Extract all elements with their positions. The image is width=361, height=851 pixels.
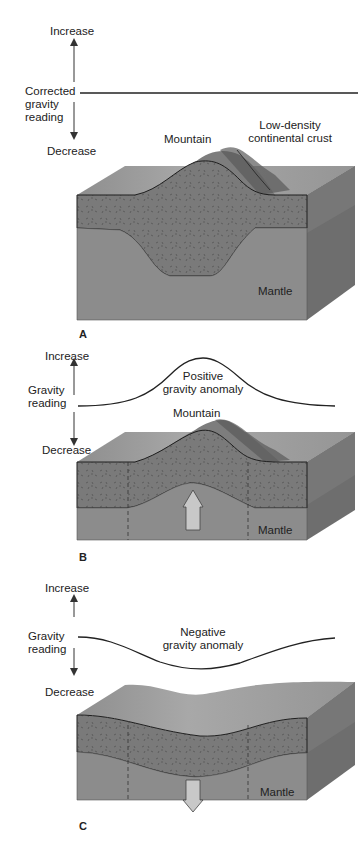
axis-reading-label-line2: reading <box>28 397 66 410</box>
axis-increase-label: Increase <box>50 25 94 38</box>
axis-decrease-label: Decrease <box>47 145 96 158</box>
axis-decrease-label: Decrease <box>45 686 94 699</box>
anomaly-label-line2: gravity anomaly <box>153 383 253 396</box>
axis-reading-label-line2: reading <box>28 643 66 656</box>
crust-label-line1: Low-density <box>240 119 340 132</box>
axis-increase-label: Increase <box>45 350 89 363</box>
anomaly-label-line1: Negative <box>163 626 243 639</box>
axis-reading-label-line1: Gravity <box>28 384 64 397</box>
anomaly-label-line2: gravity anomaly <box>153 639 253 652</box>
crust-label-line2: continental crust <box>230 132 350 145</box>
panel-letter-c: C <box>79 820 87 832</box>
mantle-label: Mantle <box>260 786 295 799</box>
anomaly-label-line1: Positive <box>163 370 243 383</box>
mountain-label: Mountain <box>164 133 211 146</box>
panel-letter-b: B <box>79 551 87 563</box>
axis-reading-label-line2: gravity <box>25 98 59 111</box>
mantle-label: Mantle <box>258 285 293 298</box>
mantle-label: Mantle <box>258 524 293 537</box>
axis-increase-label: Increase <box>45 582 89 595</box>
mountain-label: Mountain <box>173 407 220 420</box>
panel-letter-a: A <box>79 328 87 340</box>
panel-a <box>74 42 358 320</box>
axis-reading-label-line3: reading <box>25 111 63 124</box>
axis-reading-label-line1: Gravity <box>28 630 64 643</box>
axis-decrease-label: Decrease <box>42 444 91 457</box>
axis-reading-label-line1: Corrected <box>25 85 76 98</box>
subsidence-arrow-icon <box>183 780 203 812</box>
